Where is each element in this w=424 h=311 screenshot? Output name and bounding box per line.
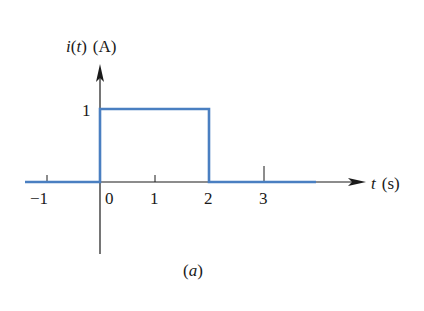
y-axis-label: i(t)(A): [66, 37, 116, 56]
x-tick-label-neg1: −1: [30, 189, 48, 208]
y-tick-label-1: 1: [82, 101, 91, 120]
step-pulse-chart: i(t)(A) 1 −1 0 1 2 3 t(s) (a): [0, 0, 424, 311]
x-tick-label-0: 0: [105, 189, 114, 208]
x-axis-label: t(s): [371, 174, 400, 193]
figure-caption: (a): [183, 261, 203, 280]
x-ticks: [47, 166, 264, 182]
x-tick-label-2: 2: [204, 189, 213, 208]
signal-trace: [25, 109, 316, 182]
x-tick-label-3: 3: [259, 189, 268, 208]
x-tick-label-1: 1: [150, 189, 159, 208]
